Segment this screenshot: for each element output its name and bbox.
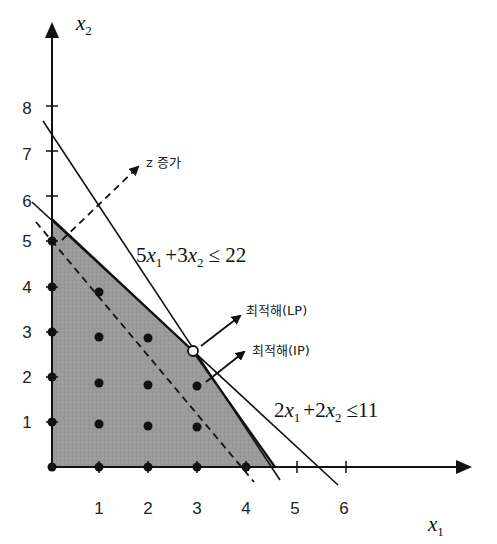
optimal-lp-label: 최적해(LP) [246,303,307,318]
x-tick-label: 1 [94,499,103,518]
x-tick-label: 4 [241,499,250,518]
x-tick-label: 6 [339,499,348,518]
x-tick-label: 3 [192,499,201,518]
y-tick-label: 6 [22,192,31,211]
y-tick-label: 2 [22,368,31,387]
y-tick-label: 4 [22,278,31,297]
y-tick-label: 1 [22,413,31,432]
optimal-ip-label: 최적해(IP) [252,343,310,358]
y-tick-label: 5 [22,232,31,251]
x-axis-label: x1 [427,512,444,539]
constraint-label-1: 5x1+3x2≤ 22 [136,243,246,270]
y-tick-label: 7 [22,145,31,164]
constraint-label-2: 2x1+2x2≤11 [274,398,378,425]
x-tick-label: 5 [290,499,299,518]
lp-ip-graph: 1 2 3 4 5 6 1 2 3 4 5 6 7 8 x1 x2 z 증가 최… [0,0,497,544]
y-tick-label: 3 [22,323,31,342]
z-increase-label: z 증가 [146,155,181,170]
ip-pointer-arrow [206,352,244,382]
z-increase-arrow [62,167,138,240]
lp-optimum-point [188,346,198,356]
lp-pointer-arrow [201,316,240,346]
x-tick-label: 2 [143,499,152,518]
y-tick-label: 8 [22,99,31,118]
y-axis-label: x2 [75,11,92,38]
